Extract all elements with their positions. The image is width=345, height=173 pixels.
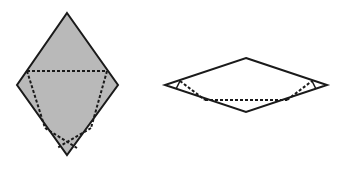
edge-line-solid (312, 81, 316, 89)
edge-line-solid (176, 81, 180, 89)
flat-rhombus-outline (165, 58, 327, 112)
diagram-canvas (0, 0, 345, 173)
tall-rhombus-shaded (17, 13, 118, 155)
folding-diagram (0, 0, 345, 173)
rhombus-outline (165, 58, 327, 112)
rhombus-outline (17, 13, 118, 155)
